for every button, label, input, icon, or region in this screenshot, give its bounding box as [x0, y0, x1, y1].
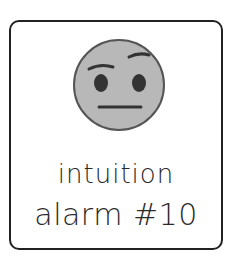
skeptical-face-icon [71, 37, 167, 133]
symbol-card: intuition alarm #10 [9, 20, 223, 250]
card-label-line2: alarm #10 [11, 197, 221, 232]
card-label-line1: intuition [11, 159, 221, 189]
